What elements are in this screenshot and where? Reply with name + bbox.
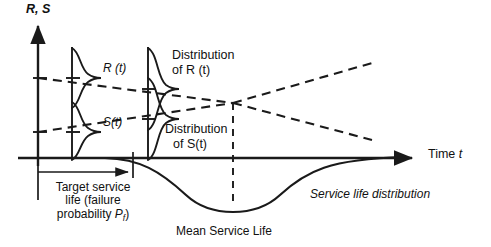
r-curve-label: R (t) (103, 62, 126, 75)
y-axis-label: R, S (26, 2, 50, 16)
s-lower-cone-line (233, 103, 372, 140)
peak-connector-ticks (33, 78, 156, 132)
s-distribution-label-line1: Distribution (165, 122, 228, 136)
target-service-life-line2: life (failure (65, 193, 120, 207)
target-service-life-line3-post: ) (125, 207, 129, 221)
r-distribution-label-line1: Distribution (172, 48, 235, 62)
r-mean-trend-line (38, 78, 233, 103)
target-service-life-note: Target service life (failure probability… (34, 181, 152, 224)
failure-probability-symbol: P (115, 207, 123, 221)
x-axis-label: Time t (428, 147, 462, 161)
s-distribution-curve-t1 (72, 102, 101, 160)
service-life-reliability-diagram: R, S Time t R (t) S(t) Distribution of R… (0, 0, 491, 247)
r-distribution-label-line2: of R (t) (172, 63, 210, 77)
s-distribution-label-line2: of S(t) (173, 137, 207, 151)
target-service-life-line3-pre: probability (57, 207, 115, 221)
station1-distributions (72, 48, 101, 160)
service-life-distribution-label: Service life distribution (310, 188, 430, 201)
s-curve-label: S(t) (103, 116, 122, 129)
mean-service-life-label: Mean Service Life (176, 225, 272, 238)
x-axis-label-text: Time (428, 147, 459, 161)
r-upper-cone-line (233, 63, 372, 103)
target-service-life-line1: Target service (56, 180, 131, 194)
x-axis-label-variable: t (459, 147, 462, 161)
axes-group (18, 26, 412, 166)
